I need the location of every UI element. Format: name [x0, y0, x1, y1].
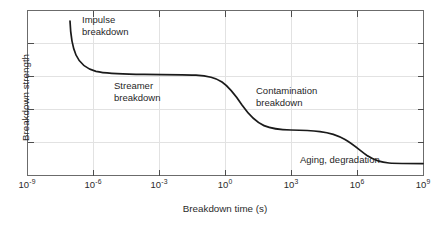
x-axis-title: Breakdown time (s) [183, 203, 267, 214]
x-tick-label: 106 [350, 179, 365, 190]
annotation-contamination-breakdown: Contamination breakdown [256, 85, 317, 108]
x-tick-label: 10-6 [84, 179, 101, 190]
y-tick-marks-right [418, 44, 424, 143]
x-tick-label: 10-3 [150, 179, 167, 190]
x-tick-marks [94, 170, 358, 176]
annotation-impulse-breakdown: Impulse breakdown [82, 14, 128, 37]
x-tick-label: 10-9 [18, 179, 35, 190]
x-tick-marks-top [94, 11, 358, 17]
y-axis-title: Breakdown strength [20, 28, 31, 168]
x-tick-label: 100 [218, 179, 233, 190]
chart-figure: 10-9 10-6 10-3 100 103 106 109 Breakdown… [0, 0, 440, 227]
annotation-streamer-breakdown: Streamer breakdown [114, 80, 160, 103]
x-tick-label: 103 [284, 179, 299, 190]
plot-canvas [0, 0, 440, 227]
x-tick-label: 109 [416, 179, 431, 190]
annotation-aging-degradation: Aging, degradation [300, 154, 380, 166]
